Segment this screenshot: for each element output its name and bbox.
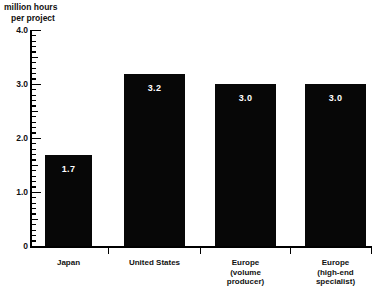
plot-area: 4.03.02.01.00 1.73.23.03.0 JapanUnited S… [0, 0, 374, 292]
y-tick-1 [32, 192, 41, 194]
y-tick-3.4 [32, 62, 36, 63]
bar-value-label: 3.0 [305, 93, 366, 103]
y-tick-label-2.0: 2.0 [2, 134, 28, 143]
y-tick-2.1 [32, 132, 36, 133]
y-tick-3.7 [32, 46, 36, 47]
y-tick-1.3 [32, 176, 36, 177]
y-tick-3.5 [32, 57, 38, 58]
y-tick-3.3 [32, 68, 36, 69]
y-tick-1.5 [32, 165, 38, 166]
y-tick-1.7 [32, 154, 36, 155]
y-tick-2.2 [32, 127, 36, 128]
y-tick-3.9 [32, 35, 36, 36]
y-tick-1.8 [32, 149, 36, 150]
y-tick-0.6 [32, 213, 36, 214]
bar-value-label: 3.2 [124, 83, 185, 93]
y-tick-0.2 [32, 235, 36, 236]
y-tick-1.1 [32, 186, 36, 187]
y-tick-1.6 [32, 159, 36, 160]
y-tick-1.2 [32, 181, 36, 182]
y-tick-1.4 [32, 170, 36, 171]
category-label-line: (high-end [281, 268, 374, 278]
bar-value-label: 1.7 [45, 164, 92, 174]
y-tick-0.8 [32, 203, 36, 204]
y-tick-2.9 [32, 89, 36, 90]
y-tick-3.6 [32, 51, 36, 52]
y-tick-2 [32, 138, 41, 140]
y-tick-0 [32, 246, 41, 248]
x-tick-3 [371, 248, 372, 254]
bar-3: 3.0 [305, 84, 366, 246]
y-tick-0.5 [32, 219, 38, 220]
y-tick-label-1.0: 1.0 [2, 188, 28, 197]
x-tick-0 [108, 248, 109, 254]
bar-value-label: 3.0 [215, 93, 276, 103]
y-tick-0.1 [32, 240, 36, 241]
x-tick-2 [290, 248, 291, 254]
y-tick-0.9 [32, 197, 36, 198]
category-label-line: specialist) [281, 277, 374, 287]
y-tick-0.7 [32, 208, 36, 209]
y-tick-label-3.0: 3.0 [2, 80, 28, 89]
y-tick-3.8 [32, 41, 36, 42]
y-tick-3 [32, 84, 41, 86]
y-tick-0.3 [32, 230, 36, 231]
category-label-3: Europe(high-endspecialist) [281, 258, 374, 287]
bar-chart: million hours per project 4.03.02.01.00 … [0, 0, 374, 292]
bar-2: 3.0 [215, 84, 276, 246]
y-tick-4 [32, 30, 41, 32]
y-tick-2.3 [32, 122, 36, 123]
bar-0: 1.7 [45, 155, 92, 247]
y-tick-3.2 [32, 73, 36, 74]
y-tick-2.8 [32, 95, 36, 96]
y-tick-0.4 [32, 224, 36, 225]
y-tick-2.4 [32, 116, 36, 117]
y-tick-2.6 [32, 105, 36, 106]
x-tick-1 [200, 248, 201, 254]
y-tick-1.9 [32, 143, 36, 144]
y-tick-label-4.0: 4.0 [2, 26, 28, 35]
category-label-line: Europe [281, 258, 374, 268]
y-tick-2.5 [32, 111, 38, 112]
y-tick-2.7 [32, 100, 36, 101]
y-axis-tick-labels: 4.03.02.01.00 [0, 0, 28, 292]
y-tick-label-0: 0 [2, 242, 28, 251]
bar-1: 3.2 [124, 74, 185, 247]
y-tick-3.1 [32, 78, 36, 79]
